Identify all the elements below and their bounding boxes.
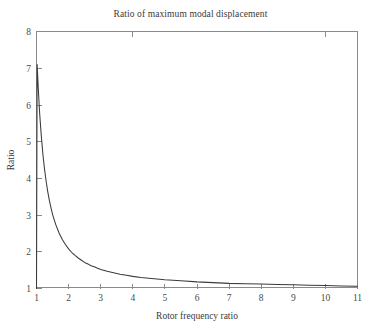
x-tick-label: 5 xyxy=(163,293,168,303)
data-series-line xyxy=(37,65,358,289)
x-tick-label: 11 xyxy=(353,293,362,303)
y-tick-label: 1 xyxy=(26,284,31,294)
y-tick-label: 4 xyxy=(26,174,31,184)
x-tick-label: 1 xyxy=(34,293,39,303)
x-axis-title: Rotor frequency ratio xyxy=(156,311,238,321)
top-axis-ticks xyxy=(133,32,326,37)
x-tick-label: 7 xyxy=(227,293,232,303)
plot-area: 1 2 3 4 5 6 7 8 1 2 3 4 5 6 7 8 9 10 11 … xyxy=(0,0,381,330)
y-axis-title: Ratio xyxy=(6,149,16,170)
x-tick-label: 4 xyxy=(130,293,135,303)
x-tick-label: 2 xyxy=(66,293,71,303)
plot-frame xyxy=(37,32,358,288)
y-tick-labels: 1 2 3 4 5 6 7 8 xyxy=(26,27,31,294)
x-tick-label: 10 xyxy=(321,293,331,303)
figure-container: Ratio of maximum modal displacement xyxy=(0,0,381,330)
y-tick-label: 3 xyxy=(26,211,31,221)
x-tick-label: 8 xyxy=(259,293,264,303)
y-tick-label: 2 xyxy=(26,247,31,257)
y-tick-label: 6 xyxy=(26,101,31,111)
y-tick-label: 8 xyxy=(26,27,31,37)
y-tick-label: 7 xyxy=(26,64,31,74)
y-tick-label: 5 xyxy=(26,137,31,147)
x-tick-label: 6 xyxy=(195,293,200,303)
x-tick-labels: 1 2 3 4 5 6 7 8 9 10 11 xyxy=(34,293,362,303)
x-tick-label: 9 xyxy=(291,293,296,303)
x-tick-label: 3 xyxy=(98,293,103,303)
